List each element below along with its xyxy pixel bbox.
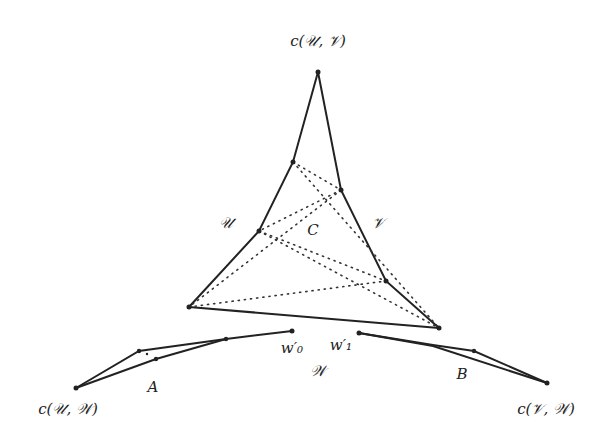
edge-bottom [189,307,439,328]
vertex-point [472,349,476,353]
vertex-point [545,381,550,386]
edge-v [318,72,439,328]
label-top-vertex: c(𝒰, 𝒱) [290,32,346,50]
label-a: A [146,378,159,396]
label-w: 𝒲 [310,362,329,380]
vertex-point [187,305,192,310]
vertex-point [154,357,158,361]
diagram-canvas: c(𝒰, 𝒱) 𝒰 C 𝒱 w′₀ w′₁ 𝒲 A B c(𝒰, 𝒲) c(𝒱,… [0,0,606,442]
vertex-point [357,331,362,336]
vertex-point [224,337,228,341]
vertex-point [290,329,295,334]
label-u: 𝒰 [219,214,237,232]
edge-a-upper [76,331,292,388]
diagram-svg: c(𝒰, 𝒱) 𝒰 C 𝒱 w′₀ w′₁ 𝒲 A B c(𝒰, 𝒲) c(𝒱,… [0,0,606,442]
label-c: C [307,221,319,239]
vertex-point [316,70,321,75]
dotted-chord [259,190,341,231]
label-v: 𝒱 [372,214,389,232]
edge-b-upper [359,333,547,383]
vertex-point [339,188,344,193]
label-bottom-right-vertex: c(𝒱, 𝒲) [517,400,575,418]
dotted-chord [293,162,341,190]
edge-b-lower [359,333,547,383]
vertex-point [74,386,79,391]
vertex-point [137,349,141,353]
vertex-point [291,160,296,165]
vertex-point [146,353,148,355]
label-w0: w′₀ [281,339,303,357]
label-w1: w′₁ [330,336,352,354]
region-b [357,331,550,386]
vertex-point [384,279,389,284]
label-bottom-left-vertex: c(𝒰, 𝒲) [38,400,98,418]
dotted-chord [259,231,439,328]
edge-u [189,72,318,307]
vertex-point [437,326,442,331]
triangle-c [187,70,442,331]
dotted-chord [259,231,386,281]
label-b: B [455,365,467,383]
vertex-point [257,229,262,234]
dotted-chord [293,162,439,328]
region-a [74,329,295,391]
